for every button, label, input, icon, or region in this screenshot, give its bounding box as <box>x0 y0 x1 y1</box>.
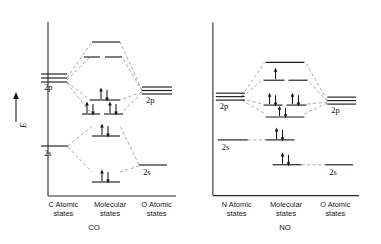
molecule-name-no: NO <box>190 223 380 232</box>
electron-pair-sigma-2p <box>99 88 109 102</box>
label-o-2s: 2s <box>329 167 337 177</box>
label-o-2p: 2p <box>146 95 155 105</box>
caption-line2: states <box>133 209 180 218</box>
label-o-2s: 2s <box>143 167 151 177</box>
molecule-name-co: CO <box>14 223 174 232</box>
correlation-lines <box>242 62 328 164</box>
caption-line1: O Atomic <box>311 200 360 209</box>
label-c-2p: 2p <box>44 82 53 92</box>
electron-pair-sigma-star-2s <box>275 127 285 141</box>
caption-n-atomic-states: N Atomic states <box>212 200 261 218</box>
electron-pair-sigma-2s <box>100 170 110 184</box>
caption-o-atomic-states: O Atomic states <box>133 200 180 218</box>
caption-line1: O Atomic <box>133 200 180 209</box>
mo-diagram-figure: E <box>0 0 381 244</box>
caption-line1: N Atomic <box>212 200 261 209</box>
no-column-captions: N Atomic states Molecular states O Atomi… <box>212 200 360 218</box>
label-c-2s: 2s <box>44 148 52 158</box>
caption-line2: states <box>311 209 360 218</box>
level-o-2p <box>142 87 172 94</box>
electron-pair-pi-2p-b <box>108 102 118 116</box>
label-n-2p: 2p <box>220 101 229 111</box>
caption-line1: Molecular <box>261 200 310 209</box>
caption-c-atomic-states: C Atomic states <box>40 200 87 218</box>
caption-line1: C Atomic <box>40 200 87 209</box>
caption-o-atomic-states: O Atomic states <box>311 200 360 218</box>
caption-line2: states <box>261 209 310 218</box>
caption-line2: states <box>40 209 87 218</box>
electron-pair-pi-2p-a <box>268 93 278 107</box>
level-o-2p <box>327 97 356 104</box>
correlation-lines <box>67 42 142 172</box>
energy-arrow-icon <box>13 92 19 122</box>
electron-pair-sigma-star-2s <box>100 124 110 138</box>
level-n-2p <box>216 93 245 100</box>
electron-pair-pi-2p-a <box>85 102 95 116</box>
label-o-2p: 2p <box>331 105 340 115</box>
caption-line2: states <box>212 209 261 218</box>
electron-single-pi-star-2p <box>274 68 278 79</box>
caption-molecular-states: Molecular states <box>261 200 310 218</box>
electron-pair-pi-2p-b <box>291 93 301 107</box>
caption-line1: Molecular <box>87 200 134 209</box>
label-n-2s: 2s <box>222 142 230 152</box>
electron-pair-sigma-2p <box>278 106 288 118</box>
caption-line2: states <box>87 209 134 218</box>
co-column-captions: C Atomic states Molecular states O Atomi… <box>40 200 180 218</box>
caption-molecular-states: Molecular states <box>87 200 134 218</box>
panel-no: 2p 2s 2p 2s <box>190 0 380 244</box>
level-c-2p <box>41 74 67 82</box>
panel-co: E <box>0 0 190 244</box>
electron-pair-sigma-2s <box>281 152 291 166</box>
